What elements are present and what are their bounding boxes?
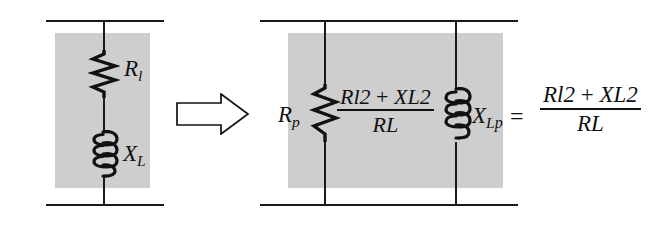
circuit-equivalence-figure: Rl XL Rp Rl2 + XL2 RL XLp	[0, 0, 653, 227]
left-resistor-label-base: R	[124, 56, 138, 81]
left-resistor-label: Rl	[124, 57, 142, 83]
left-circuit-wire-mid	[103, 96, 105, 132]
left-circuit-top-rail	[46, 20, 164, 22]
right-resistor-label-sub: p	[292, 113, 300, 130]
right-inductor-label-base: X	[472, 103, 486, 128]
left-circuit-wire-bottom	[103, 176, 105, 206]
right-resistor-value-fraction: Rl2 + XL2 RL	[337, 85, 434, 136]
equation-denominator: RL	[540, 110, 641, 136]
right-inductor-branch-wire-top	[455, 20, 457, 90]
equation-numerator: Rl2 + XL2	[540, 83, 641, 108]
left-circuit-bottom-rail	[46, 204, 164, 206]
left-inductor-symbol	[86, 130, 122, 178]
left-inductor-label-sub: L	[137, 152, 146, 169]
right-resistor-value-denominator: RL	[337, 111, 434, 136]
right-inductor-label: XLp	[472, 104, 503, 131]
equation-right-side-fraction: Rl2 + XL2 RL	[540, 83, 641, 136]
equals-sign: =	[510, 103, 524, 130]
right-resistor-branch-wire-bottom	[324, 140, 326, 206]
right-resistor-branch-wire-top	[324, 20, 326, 86]
left-resistor-symbol	[88, 50, 120, 98]
right-inductor-symbol	[438, 87, 474, 145]
right-resistor-label: Rp	[278, 103, 300, 129]
transform-arrow-icon	[176, 93, 250, 135]
right-inductor-label-subsub: p	[495, 114, 503, 131]
left-resistor-label-sub: l	[138, 67, 142, 84]
right-inductor-label-sub: L	[486, 114, 495, 131]
left-inductor-label-base: X	[123, 141, 137, 166]
right-inductor-branch-wire-bottom	[455, 142, 457, 206]
right-circuit-top-rail	[260, 20, 518, 22]
left-circuit-wire-top	[103, 20, 105, 52]
right-circuit-bottom-rail	[260, 204, 518, 206]
right-resistor-value-numerator: Rl2 + XL2	[337, 85, 434, 109]
right-resistor-label-base: R	[278, 102, 292, 127]
left-inductor-label: XL	[123, 142, 146, 168]
